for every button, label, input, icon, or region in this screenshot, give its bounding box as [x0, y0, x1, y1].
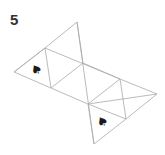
octahedron-net: ♠ ♠ [0, 0, 165, 155]
spade-icon: ♠ [27, 60, 45, 79]
net-edge [77, 22, 94, 144]
spade-icon: ♠ [93, 112, 111, 131]
net-edge [45, 48, 51, 88]
net-edge [51, 63, 83, 88]
